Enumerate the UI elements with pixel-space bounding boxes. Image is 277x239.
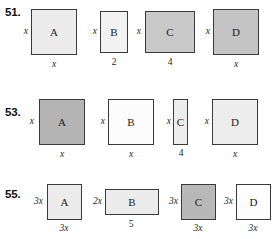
figure-letter: B — [110, 27, 117, 38]
figure-shape: C — [181, 184, 216, 220]
figure-bottom-label: x — [129, 150, 133, 160]
figure-shape: B — [105, 189, 159, 215]
figure-bottom-label: x — [234, 60, 238, 70]
figure-letter: A — [61, 197, 69, 208]
figure-shape: A — [31, 9, 77, 55]
figure-side-label: 2x — [86, 197, 102, 207]
figure-shape: D — [236, 184, 271, 220]
figure-letter: B — [127, 117, 134, 128]
figure-shape: C — [173, 99, 188, 145]
figure-bottom-label: x — [60, 150, 64, 160]
problem-number: 53. — [5, 106, 20, 118]
problem-number: 51. — [5, 6, 20, 18]
figure-side-label: 3x — [27, 197, 43, 207]
figure-bottom-label: 5 — [129, 220, 134, 230]
problem-number: 55. — [5, 188, 20, 200]
figure-letter: C — [177, 117, 184, 128]
figure-shape: A — [47, 184, 82, 220]
figure-shape: A — [39, 99, 85, 145]
figure-shape: D — [213, 9, 259, 55]
figure-side-label: x — [129, 27, 141, 37]
figure-shape: C — [145, 11, 195, 53]
figure-letter: C — [166, 27, 173, 38]
figure-side-label: x — [16, 27, 28, 37]
figure-shape: B — [100, 11, 128, 53]
figure-shape: D — [212, 99, 258, 145]
problem-row-53: 53. x A x x B x x C 4 x D x — [0, 80, 277, 158]
figure-bottom-label: x — [233, 150, 237, 160]
figure-bottom-label: x — [52, 60, 56, 70]
figure-bottom-label: 3x — [194, 224, 203, 234]
figure-bottom-label: 4 — [168, 58, 173, 68]
figure-letter: D — [231, 117, 239, 128]
figure-letter: A — [58, 117, 66, 128]
figure-shape: B — [108, 99, 154, 145]
figure-side-label: 3x — [217, 197, 233, 207]
figure-bottom-label: 3x — [60, 224, 69, 234]
figure-side-label: x — [159, 117, 171, 127]
figure-letter: B — [128, 197, 135, 208]
figure-side-label: 3x — [162, 197, 178, 207]
figure-letter: A — [50, 27, 58, 38]
figure-letter: C — [195, 197, 202, 208]
figure-bottom-label: 3x — [249, 224, 258, 234]
figure-bottom-label: 4 — [179, 149, 184, 159]
problem-row-51: 51. x A x x B 2 x C 4 x D x — [0, 0, 277, 76]
figure-side-label: x — [198, 27, 210, 37]
figure-side-label: x — [197, 117, 209, 127]
figure-bottom-label: 2 — [112, 58, 117, 68]
figure-side-label: x — [22, 117, 34, 127]
figure-side-label: x — [93, 117, 105, 127]
figure-letter: D — [232, 27, 240, 38]
figure-letter: D — [250, 197, 258, 208]
figure-side-label: x — [85, 27, 97, 37]
problem-row-55: 55. 3x A 3x 2x B 5 3x C 3x 3x D 3x — [0, 162, 277, 239]
